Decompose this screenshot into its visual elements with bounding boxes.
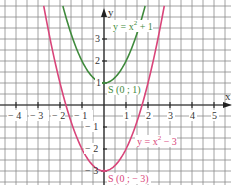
x-tick-label: − 3 [30, 110, 43, 121]
x-tick-label: − 4 [8, 110, 21, 121]
x-axis-arrow-icon [223, 102, 232, 108]
axes [0, 8, 232, 185]
x-tick-label: − 2 [52, 110, 65, 121]
y-axis-arrow-icon [101, 8, 107, 17]
vertex-label-green: S (0 ; 1) [108, 84, 141, 96]
svg-text:y = x2 + 1: y = x2 + 1 [113, 19, 153, 32]
x-tick-label: 5 [212, 110, 217, 121]
vertex-point-pink [103, 170, 106, 173]
y-tick-label: − 2 [85, 143, 98, 154]
y-axis-label: y [108, 6, 114, 18]
parabola-plot: x y − 4 − 3 − 2 − 1 1 2 3 4 5 3 2 1 − 1 … [0, 0, 235, 185]
y-tick-label: 3 [95, 33, 100, 44]
y-tick-label: − 1 [85, 121, 98, 132]
svg-text:y = x2 − 3: y = x2 − 3 [137, 134, 177, 147]
x-tick-label: − 1 [74, 110, 87, 121]
equation-label-green: y = x2 + 1 [111, 19, 153, 32]
eq-green-suffix: + 1 [137, 21, 153, 32]
eq-pink-base: y = x [137, 136, 158, 147]
vertex-point-green [103, 82, 106, 85]
equation-label-pink: y = x2 − 3 [135, 134, 177, 147]
eq-green-base: y = x [113, 21, 134, 32]
y-tick-label: 1 [96, 77, 101, 88]
x-axis-label: x [225, 90, 231, 102]
vertex-label-pink: S (0 ; − 3) [108, 173, 149, 185]
eq-pink-suffix: − 3 [161, 136, 177, 147]
x-tick-label: 1 [124, 110, 129, 121]
y-tick-label: 2 [95, 55, 100, 66]
x-tick-labels: − 4 − 3 − 2 − 1 1 2 3 4 5 [7, 110, 219, 121]
x-tick-label: 3 [168, 110, 173, 121]
y-tick-label: − 3 [85, 165, 98, 176]
x-tick-label: 4 [190, 110, 195, 121]
x-tick-label: 2 [146, 110, 151, 121]
